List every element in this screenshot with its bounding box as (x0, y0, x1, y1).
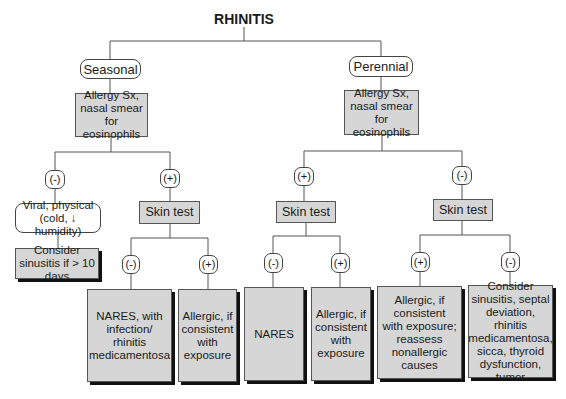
perennial-allergic-box: Allergic, if consistent with exposure (311, 287, 371, 381)
perennial-positive-sign: (+) (294, 167, 314, 186)
nares-box: NARES (244, 287, 304, 381)
seasonal-workup-box: Allergy Sx, nasal smear for eosinophils (75, 93, 148, 137)
seasonal-skin-test-box: Skin test (139, 201, 200, 224)
perennial-neg-skin-negative-sign: (-) (501, 252, 520, 272)
seasonal-allergic-box: Allergic, if consistent with exposure (178, 289, 237, 382)
consider-sinusitis-box: Consider sinusitis if > 10 days (15, 248, 99, 279)
seasonal-positive-sign: (+) (160, 169, 180, 188)
perennial-pos-skin-positive-sign: (+) (331, 253, 350, 273)
seasonal-negative-sign: (-) (45, 170, 65, 189)
seasonal-skin-negative-sign: (-) (122, 255, 140, 274)
perennial-negative-sign: (-) (452, 166, 472, 185)
perennial-workup-box: Allergy Sx, nasal smear for eosinophils (344, 90, 419, 135)
nares-infection-box: NARES, with infection/ rhinitis medicame… (87, 289, 172, 382)
perennial-positive-skin-test-box: Skin test (276, 201, 336, 223)
diagram-title: RHINITIS (214, 10, 274, 28)
consider-sinusitis-differential-box: Consider sinusitis, septal deviation, rh… (468, 285, 553, 378)
perennial-pos-skin-negative-sign: (-) (264, 253, 283, 273)
perennial-negative-skin-test-box: Skin test (433, 199, 493, 221)
seasonal-skin-positive-sign: (+) (199, 255, 218, 274)
viral-physical-node: Viral, physical (cold, ↓ humidity) (15, 203, 101, 233)
perennial-neg-skin-positive-sign: (+) (411, 252, 430, 272)
perennial-node: Perennial (349, 56, 413, 77)
seasonal-node: Seasonal (80, 59, 141, 79)
allergic-reassess-box: Allergic, if consistent with exposure; r… (377, 286, 462, 379)
